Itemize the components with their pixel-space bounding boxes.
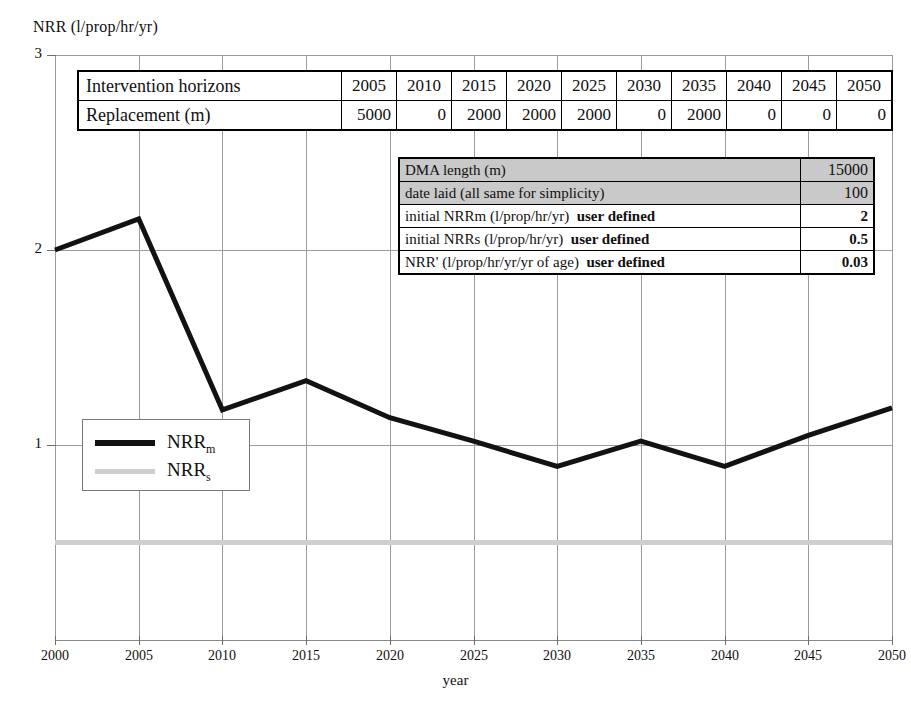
legend-label-nrrs-text: NRR bbox=[167, 459, 206, 480]
parameter-value: 2 bbox=[801, 205, 875, 228]
table-row: Intervention horizons2005201020152020202… bbox=[78, 71, 892, 101]
replacement-value-cell: 5000 bbox=[342, 101, 397, 131]
x-axis-tick bbox=[222, 636, 223, 645]
parameter-suffix: user defined bbox=[571, 231, 649, 247]
replacement-label: Replacement (m) bbox=[78, 101, 342, 131]
x-tick-label: 2020 bbox=[360, 648, 420, 664]
legend-label-nrrs-sub: s bbox=[206, 469, 211, 483]
replacement-value-cell: 2000 bbox=[507, 101, 562, 131]
y-axis-tick bbox=[47, 55, 56, 56]
x-tick-label: 2030 bbox=[527, 648, 587, 664]
intervention-year-cell: 2025 bbox=[562, 71, 617, 101]
intervention-year-cell: 2010 bbox=[397, 71, 452, 101]
legend-label-nrrm: NRRm bbox=[167, 432, 215, 455]
x-tick-label: 2040 bbox=[695, 648, 755, 664]
table-row: initial NRRm (l/prop/hr/yr) user defined… bbox=[399, 205, 874, 228]
x-axis-label: year bbox=[0, 672, 911, 689]
chart-legend: NRRm NRRs bbox=[82, 419, 250, 491]
intervention-year-cell: 2005 bbox=[342, 71, 397, 101]
parameter-label: DMA length (m) bbox=[399, 158, 801, 182]
intervention-year-cell: 2020 bbox=[507, 71, 562, 101]
replacement-value-cell: 2000 bbox=[562, 101, 617, 131]
y-axis-tick bbox=[47, 250, 56, 251]
x-tick-label: 2015 bbox=[276, 648, 336, 664]
intervention-year-cell: 2035 bbox=[672, 71, 727, 101]
gridline-horizontal bbox=[55, 55, 893, 56]
replacement-value-cell: 0 bbox=[837, 101, 893, 131]
y-axis-title: NRR (l/prop/hr/yr) bbox=[33, 18, 158, 36]
legend-item-nrrs: NRRs bbox=[83, 457, 249, 485]
legend-label-nrrm-text: NRR bbox=[167, 431, 206, 452]
intervention-year-cell: 2045 bbox=[782, 71, 837, 101]
parameter-value: 15000 bbox=[801, 158, 875, 182]
replacement-value-cell: 0 bbox=[617, 101, 672, 131]
gridline-vertical bbox=[55, 55, 56, 641]
replacement-value-cell: 2000 bbox=[452, 101, 507, 131]
x-tick-label: 2010 bbox=[192, 648, 252, 664]
table-row: Replacement (m)5000020002000200002000000 bbox=[78, 101, 892, 131]
x-axis-tick bbox=[306, 636, 307, 645]
x-tick-label: 2050 bbox=[862, 648, 911, 664]
x-tick-label: 2005 bbox=[109, 648, 169, 664]
legend-label-nrrs: NRRs bbox=[167, 460, 211, 483]
parameter-label: initial NRRm (l/prop/hr/yr) user defined bbox=[399, 205, 801, 228]
parameter-suffix: user defined bbox=[586, 254, 664, 270]
gridline-vertical bbox=[641, 55, 642, 641]
intervention-year-cell: 2050 bbox=[837, 71, 893, 101]
gridline-vertical bbox=[892, 55, 893, 641]
x-tick-label: 2035 bbox=[611, 648, 671, 664]
legend-item-nrrm: NRRm bbox=[83, 429, 249, 457]
gridline-vertical bbox=[725, 55, 726, 641]
parameters-table: DMA length (m)15000date laid (all same f… bbox=[398, 157, 875, 275]
replacement-value-cell: 0 bbox=[397, 101, 452, 131]
gridline-vertical bbox=[474, 55, 475, 641]
intervention-year-cell: 2015 bbox=[452, 71, 507, 101]
gridline-vertical bbox=[390, 55, 391, 641]
gridline-vertical bbox=[222, 55, 223, 641]
x-tick-label: 2000 bbox=[25, 648, 85, 664]
table-row: initial NRRs (l/prop/hr/yr) user defined… bbox=[399, 228, 874, 251]
intervention-year-cell: 2030 bbox=[617, 71, 672, 101]
x-axis-tick bbox=[808, 636, 809, 645]
parameter-value: 0.5 bbox=[801, 228, 875, 251]
y-axis-tick bbox=[47, 445, 56, 446]
x-tick-label: 2045 bbox=[778, 648, 838, 664]
x-axis-tick bbox=[139, 636, 140, 645]
x-axis-tick bbox=[892, 636, 893, 645]
y-tick-label: 2 bbox=[20, 240, 42, 257]
x-axis-tick bbox=[557, 636, 558, 645]
parameter-label: initial NRRs (l/prop/hr/yr) user defined bbox=[399, 228, 801, 251]
gridline-vertical bbox=[557, 55, 558, 641]
y-tick-label: 1 bbox=[20, 435, 42, 452]
y-tick-label: 3 bbox=[20, 45, 42, 62]
x-axis-tick bbox=[641, 636, 642, 645]
parameter-suffix: user defined bbox=[577, 208, 655, 224]
parameter-value: 100 bbox=[801, 182, 875, 205]
table-row: DMA length (m)15000 bbox=[399, 158, 874, 182]
x-axis-tick bbox=[390, 636, 391, 645]
parameter-value: 0.03 bbox=[801, 251, 875, 275]
gridline-vertical bbox=[808, 55, 809, 641]
table-row: date laid (all same for simplicity)100 bbox=[399, 182, 874, 205]
parameter-label: date laid (all same for simplicity) bbox=[399, 182, 801, 205]
replacement-value-cell: 0 bbox=[782, 101, 837, 131]
legend-swatch-nrrm-icon bbox=[95, 440, 155, 446]
x-axis-tick bbox=[55, 636, 56, 645]
table-row: NRR' (l/prop/hr/yr/yr of age) user defin… bbox=[399, 251, 874, 275]
intervention-horizons-label: Intervention horizons bbox=[78, 71, 342, 101]
gridline-vertical bbox=[139, 55, 140, 641]
legend-swatch-nrrs-icon bbox=[95, 469, 155, 474]
intervention-year-cell: 2040 bbox=[727, 71, 782, 101]
x-axis-tick bbox=[474, 636, 475, 645]
legend-label-nrrm-sub: m bbox=[206, 441, 215, 455]
replacement-value-cell: 0 bbox=[727, 101, 782, 131]
intervention-horizons-table: Intervention horizons2005201020152020202… bbox=[77, 70, 893, 131]
x-axis-tick bbox=[725, 636, 726, 645]
gridline-vertical bbox=[306, 55, 307, 641]
parameter-label: NRR' (l/prop/hr/yr/yr of age) user defin… bbox=[399, 251, 801, 275]
x-tick-label: 2025 bbox=[444, 648, 504, 664]
replacement-value-cell: 2000 bbox=[672, 101, 727, 131]
